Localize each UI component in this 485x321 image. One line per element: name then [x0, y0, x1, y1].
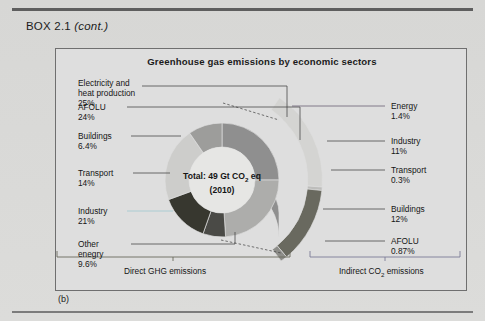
label-transport-right: Transport 0.3%: [391, 165, 426, 185]
label-line2: heat production: [78, 88, 135, 98]
donut-center-total: Total: 49 Gt CO2 eq (2010): [170, 171, 274, 196]
label-line1: Other: [78, 239, 103, 249]
center-total-line2: (2010): [170, 185, 274, 196]
label-industry-right: Industry 11%: [391, 136, 421, 156]
label-percent: 1.4%: [391, 111, 417, 121]
label-percent: 6.4%: [78, 141, 112, 151]
label-percent: 12%: [391, 214, 425, 224]
label-line1: AFOLU: [78, 102, 106, 112]
box-bottom-rule: [12, 311, 473, 313]
label-industry-left: Industry 21%: [78, 206, 108, 226]
bracket-indirect: [310, 251, 460, 261]
label-line1: Industry: [391, 136, 421, 146]
label-percent: 21%: [78, 216, 108, 226]
arc-slice-buildings: [277, 189, 322, 257]
label-afolu-right: AFOLU 0.87%: [391, 236, 419, 256]
label-buildings-left: Buildings 6.4%: [78, 131, 112, 151]
label-buildings-right: Buildings 12%: [391, 204, 425, 224]
label-line1: AFOLU: [391, 236, 419, 246]
leader-electricity: [142, 86, 287, 117]
page-background: BOX 2.1 (cont.) Greenhouse gas emissions…: [0, 0, 485, 321]
dashed-connector-top: [223, 103, 279, 120]
label-energy-right: Energy 1.4%: [391, 101, 417, 121]
label-transport-left: Transport 14%: [78, 168, 113, 188]
dashed-connector-bottom: [221, 240, 281, 253]
box-title-cont: (cont.): [74, 20, 108, 32]
label-line1: Buildings: [78, 131, 112, 141]
panel-caption-b: (b): [58, 294, 69, 304]
label-line1: Buildings: [391, 204, 425, 214]
label-percent: 0.87%: [391, 246, 419, 256]
label-line1: Industry: [78, 206, 108, 216]
box-top-rule: [12, 8, 473, 11]
label-percent: 0.3%: [391, 175, 426, 185]
center-total-line1: Total: 49 Gt CO2 eq: [170, 171, 274, 185]
label-percent: 9.6%: [78, 259, 103, 269]
label-afolu-left: AFOLU 24%: [78, 102, 106, 122]
label-other-energy-left: Other enegry 9.6%: [78, 239, 103, 270]
label-percent: 24%: [78, 112, 106, 122]
label-line1: Energy: [391, 101, 417, 111]
box-title-main: BOX 2.1: [26, 20, 71, 32]
group-caption-direct: Direct GHG emissions: [124, 266, 206, 276]
label-line1: Transport: [78, 168, 113, 178]
label-line2: enegry: [78, 249, 103, 259]
label-line1: Electricity and: [78, 78, 135, 88]
box-title: BOX 2.1 (cont.): [26, 20, 108, 32]
label-percent: 11%: [391, 146, 421, 156]
group-caption-indirect: Indirect CO2 emissions: [339, 266, 424, 278]
label-percent: 14%: [78, 178, 113, 188]
label-line1: Transport: [391, 165, 426, 175]
